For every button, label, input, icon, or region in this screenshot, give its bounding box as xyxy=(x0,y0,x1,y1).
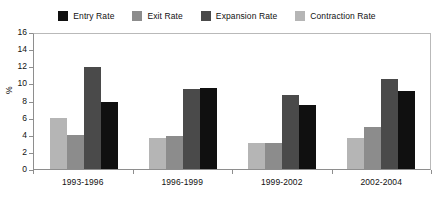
x-axis-tick-mark xyxy=(133,170,134,174)
bar-contraction-rate xyxy=(347,138,364,169)
bar-group xyxy=(331,33,430,169)
chart-legend: Entry Rate Exit Rate Expansion Rate Cont… xyxy=(0,6,434,26)
legend-item-expansion-rate: Expansion Rate xyxy=(201,11,277,21)
bar-exit-rate xyxy=(265,143,282,169)
legend-swatch-icon-contraction-rate xyxy=(295,11,305,21)
y-axis-tick-label: 2 xyxy=(22,147,27,158)
legend-swatch-icon-expansion-rate xyxy=(201,11,211,21)
legend-swatch-icon-entry-rate xyxy=(58,11,68,21)
bar-expansion-rate xyxy=(282,95,299,169)
x-axis-tick-label: 1999-2002 xyxy=(232,176,332,188)
legend-label-expansion-rate: Expansion Rate xyxy=(216,11,277,21)
legend-item-exit-rate: Exit Rate xyxy=(132,11,182,21)
x-axis-tick-label: 1996-1999 xyxy=(133,176,233,188)
legend-swatch-icon-exit-rate xyxy=(132,11,142,21)
y-axis: 1614121086420 xyxy=(0,33,33,170)
x-axis-labels: 1993-19961996-19991999-20022002-2004 xyxy=(33,176,431,188)
legend-item-contraction-rate: Contraction Rate xyxy=(295,11,375,21)
bar-chart: Entry Rate Exit Rate Expansion Rate Cont… xyxy=(0,0,434,197)
bar-contraction-rate xyxy=(50,118,67,169)
y-axis-tick-label: 4 xyxy=(22,130,27,141)
bar-entry-rate xyxy=(101,102,118,169)
x-axis-tick-label: 1993-1996 xyxy=(33,176,133,188)
bar-exit-rate xyxy=(364,127,381,169)
y-axis-tick-label: 10 xyxy=(18,78,27,89)
x-axis-tick-label: 2002-2004 xyxy=(332,176,432,188)
y-axis-tick-label: 0 xyxy=(22,164,27,175)
legend-label-exit-rate: Exit Rate xyxy=(147,11,182,21)
bar-contraction-rate xyxy=(248,143,265,169)
bar-exit-rate xyxy=(166,136,183,169)
bars-layer xyxy=(34,33,430,169)
y-axis-tick-label: 14 xyxy=(18,44,27,55)
bar-expansion-rate xyxy=(381,79,398,169)
x-axis: 1993-19961996-19991999-20022002-2004 xyxy=(33,170,431,197)
legend-item-entry-rate: Entry Rate xyxy=(58,11,114,21)
bar-contraction-rate xyxy=(149,138,166,169)
bar-group xyxy=(34,33,133,169)
bar-group xyxy=(232,33,331,169)
y-axis-tick-label: 12 xyxy=(18,61,27,72)
bar-entry-rate xyxy=(299,105,316,169)
bar-group xyxy=(133,33,232,169)
y-axis-tick-label: 6 xyxy=(22,113,27,124)
x-axis-tick-mark xyxy=(431,170,432,174)
y-axis-tick-label: 16 xyxy=(18,27,27,38)
x-axis-tick-mark xyxy=(232,170,233,174)
bar-expansion-rate xyxy=(183,89,200,169)
bar-expansion-rate xyxy=(84,67,101,169)
bar-entry-rate xyxy=(200,88,217,169)
x-axis-tick-mark xyxy=(332,170,333,174)
legend-label-entry-rate: Entry Rate xyxy=(73,11,114,21)
bar-exit-rate xyxy=(67,135,84,169)
x-axis-tick-mark xyxy=(33,170,34,174)
y-axis-tick-label: 8 xyxy=(22,96,27,107)
bar-entry-rate xyxy=(398,91,415,169)
y-axis-title: % xyxy=(4,86,14,94)
legend-label-contraction-rate: Contraction Rate xyxy=(310,11,375,21)
